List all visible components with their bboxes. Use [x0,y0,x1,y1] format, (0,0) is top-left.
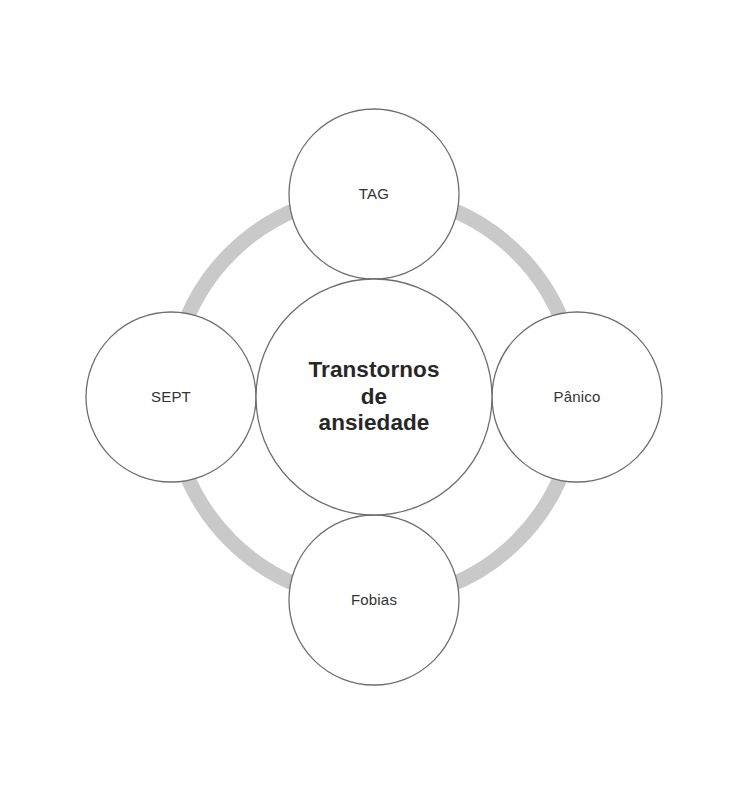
diagram-canvas [0,0,754,785]
anxiety-disorders-diagram: Transtornos de ansiedade TAG Pânico Fobi… [0,0,754,785]
center-circle[interactable] [256,279,492,515]
node-circle-fobias[interactable] [289,515,459,685]
node-circle-sept[interactable] [86,312,256,482]
node-circle-panico[interactable] [492,312,662,482]
node-circle-tag[interactable] [289,109,459,279]
